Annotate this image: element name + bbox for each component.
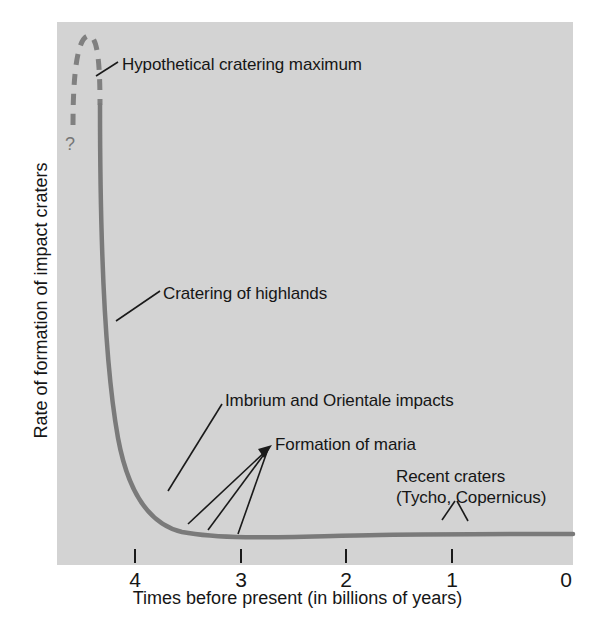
x-axis-title: Times before present (in billions of yea…: [0, 588, 595, 609]
leader-maria-group: [188, 445, 272, 534]
x-axis-ticks: [135, 549, 452, 563]
annotation-recent-craters-line1: Recent craters: [396, 466, 546, 487]
annotation-cratering-of-highlands: Cratering of highlands: [163, 283, 327, 304]
leader-imbrium: [168, 404, 222, 491]
hypothetical-maximum-curve: [73, 36, 100, 125]
annotation-recent-craters: Recent craters (Tycho, Copernicus): [396, 466, 546, 508]
y-axis-title: Rate of formation of impact craters: [31, 101, 52, 501]
leader-maria-1: [188, 449, 268, 524]
annotation-hypothetical-maximum: Hypothetical cratering maximum: [122, 54, 362, 75]
annotation-formation-of-maria: Formation of maria: [275, 434, 416, 455]
annotation-question-mark: ?: [65, 134, 75, 155]
cratering-rate-figure: Hypothetical cratering maximum ? Crateri…: [0, 0, 595, 617]
leader-maria-2: [208, 449, 268, 530]
annotation-imbrium-orientale: Imbrium and Orientale impacts: [225, 390, 454, 411]
annotation-recent-craters-line2: (Tycho, Copernicus): [396, 487, 546, 508]
leader-maria-3: [238, 449, 268, 534]
chart-vector-layer: [0, 0, 595, 617]
leader-highlands: [116, 291, 160, 321]
